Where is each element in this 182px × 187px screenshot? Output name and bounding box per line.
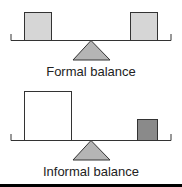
formal-left-weight: [25, 13, 52, 41]
formal-balance-caption: Formal balance: [0, 64, 182, 79]
informal-balance-scale: [11, 92, 171, 161]
informal-fulcrum: [73, 141, 110, 161]
informal-left-weight: [25, 92, 72, 141]
formal-right-weight: [131, 13, 158, 41]
balance-illustration: [0, 0, 182, 187]
informal-right-weight: [138, 120, 158, 141]
informal-balance-caption: Informal balance: [0, 164, 182, 179]
formal-fulcrum: [73, 41, 110, 61]
formal-balance-scale: [11, 13, 171, 61]
bottom-rule: [0, 184, 182, 187]
